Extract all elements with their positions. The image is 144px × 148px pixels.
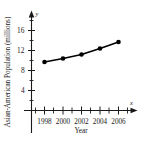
data-point-2000 — [61, 56, 66, 61]
x-tick-label-2004: 2004 — [93, 118, 108, 126]
chart-figure: y x 16 12 8 4 — [0, 0, 144, 148]
y-axis-letter: y — [35, 10, 39, 17]
x-tick-label-2000: 2000 — [56, 118, 71, 126]
data-point-2006 — [116, 40, 121, 45]
y-axis-title: Asian-American Population (millions) — [4, 16, 12, 127]
x-axis: x — [24, 99, 138, 113]
data-point-1998 — [42, 60, 47, 65]
y-axis-tick-labels: 16 12 8 4 — [17, 26, 25, 95]
x-tick-label-1998: 1998 — [37, 118, 52, 126]
y-axis-arrowhead — [29, 11, 35, 18]
y-tick-label-8: 8 — [21, 66, 25, 75]
x-tick-label-2006: 2006 — [111, 118, 126, 126]
y-tick-label-16: 16 — [17, 26, 25, 35]
data-line — [45, 42, 119, 62]
y-tick-label-4: 4 — [21, 86, 25, 95]
y-tick-label-12: 12 — [17, 46, 25, 55]
data-point-2002 — [79, 52, 84, 57]
line-chart: y x 16 12 8 4 — [0, 0, 144, 148]
x-tick-label-2002: 2002 — [74, 118, 89, 126]
data-series — [42, 40, 121, 65]
x-axis-letter: x — [129, 99, 133, 106]
data-point-2004 — [98, 46, 103, 51]
x-axis-title: Year — [74, 127, 88, 135]
x-axis-arrowhead — [131, 108, 138, 114]
y-axis: y — [29, 10, 39, 134]
x-axis-tick-labels: 1998 2000 2002 2004 2006 — [37, 118, 126, 126]
